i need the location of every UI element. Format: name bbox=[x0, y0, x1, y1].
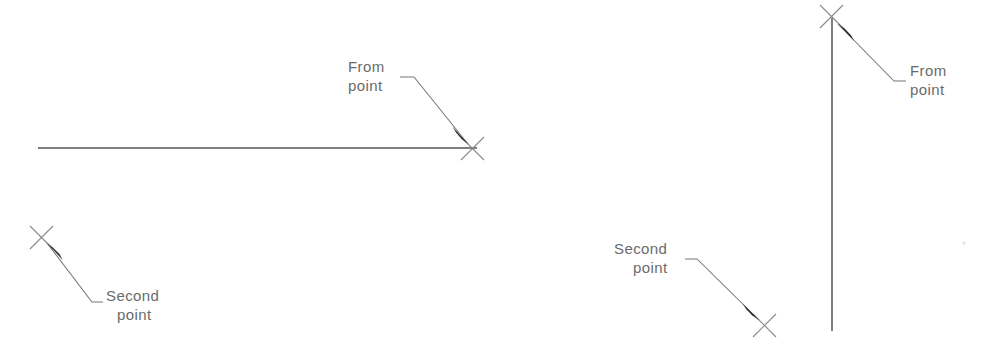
diagram-canvas: From point Second point bbox=[0, 0, 984, 349]
label-from-point-line2: point bbox=[910, 81, 945, 98]
label-second-point-horizontal: Second point bbox=[106, 287, 159, 323]
label-second-point-line2: point bbox=[633, 259, 668, 276]
label-second-point-line1: Second bbox=[106, 287, 159, 304]
label-second-point-line2: point bbox=[117, 306, 152, 323]
scan-artifact-speck bbox=[962, 241, 965, 244]
label-from-point-line1: From bbox=[910, 62, 947, 79]
label-second-point-vertical: Second point bbox=[614, 240, 668, 276]
diagram-horizontal-line-example: From point Second point bbox=[30, 58, 484, 323]
leader-from-point-horizontal bbox=[400, 77, 468, 144]
label-from-point-line2: point bbox=[348, 77, 383, 94]
leader-from-point-vertical bbox=[838, 24, 906, 81]
leader-second-point-horizontal bbox=[47, 243, 103, 302]
label-second-point-line1: Second bbox=[614, 240, 667, 257]
leader-second-point-vertical bbox=[685, 259, 759, 320]
label-from-point-line1: From bbox=[348, 58, 385, 75]
label-from-point-vertical: From point bbox=[910, 62, 947, 98]
label-from-point-horizontal: From point bbox=[348, 58, 385, 94]
diagram-vertical-line-example: From point Second point bbox=[614, 5, 947, 337]
diagram-svg: From point Second point bbox=[0, 0, 984, 349]
